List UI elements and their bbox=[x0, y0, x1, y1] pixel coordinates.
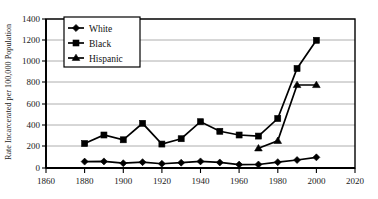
square-marker-icon bbox=[217, 128, 223, 134]
legend-label-hispanic: Hispanic bbox=[89, 54, 123, 64]
y-tick-1000: 1000 bbox=[22, 56, 41, 66]
legend-label-black: Black bbox=[89, 39, 111, 49]
x-tick-1920: 1920 bbox=[153, 176, 172, 186]
y-tick-600: 600 bbox=[27, 99, 41, 109]
chart-container: Rate Incarcerated per 100,000 Population bbox=[0, 0, 378, 199]
incarceration-rate-line-chart: Rate Incarcerated per 100,000 Population bbox=[0, 0, 378, 199]
square-marker-icon bbox=[294, 65, 300, 71]
x-tick-labels: 1860 1880 1900 1920 1940 1960 1980 2000 … bbox=[37, 176, 365, 186]
y-tick-1400: 1400 bbox=[22, 14, 41, 24]
square-marker-icon bbox=[101, 132, 107, 138]
square-marker-icon bbox=[198, 119, 204, 125]
square-marker-icon bbox=[255, 133, 261, 139]
x-tick-1880: 1880 bbox=[76, 176, 95, 186]
y-tick-400: 400 bbox=[27, 120, 41, 130]
square-marker-icon bbox=[82, 141, 88, 147]
y-axis-title: Rate Incarcerated per 100,000 Population bbox=[4, 24, 13, 160]
square-marker-icon bbox=[178, 136, 184, 142]
legend-label-white: White bbox=[89, 24, 112, 34]
y-tick-200: 200 bbox=[27, 141, 41, 151]
square-marker-icon bbox=[159, 141, 165, 147]
x-tick-1860: 1860 bbox=[37, 176, 56, 186]
square-marker-icon bbox=[236, 132, 242, 138]
x-tick-1980: 1980 bbox=[269, 176, 288, 186]
x-tick-1900: 1900 bbox=[114, 176, 133, 186]
x-tick-2000: 2000 bbox=[307, 176, 326, 186]
y-tick-0: 0 bbox=[36, 163, 41, 173]
square-marker-icon bbox=[140, 120, 146, 126]
square-marker-icon bbox=[73, 40, 79, 46]
square-marker-icon bbox=[120, 137, 126, 143]
x-tick-2020: 2020 bbox=[346, 176, 365, 186]
square-marker-icon bbox=[275, 116, 281, 122]
y-tick-1200: 1200 bbox=[22, 35, 41, 45]
chart-legend: White Black Hispanic bbox=[64, 17, 140, 67]
x-tick-1960: 1960 bbox=[230, 176, 249, 186]
chart-background bbox=[0, 0, 378, 199]
x-tick-1940: 1940 bbox=[192, 176, 211, 186]
y-tick-800: 800 bbox=[27, 77, 41, 87]
square-marker-icon bbox=[313, 37, 319, 43]
